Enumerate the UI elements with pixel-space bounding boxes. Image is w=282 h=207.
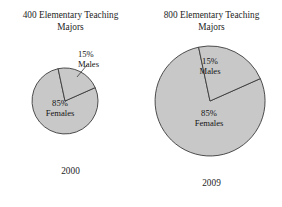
year-label-2000: 2000 [0,166,141,176]
females-percent-2000: 85% [52,98,68,108]
year-label-2009: 2009 [141,178,282,188]
slice-label-females-2000: 85% Females [25,98,95,118]
chart-panel-2000: 400 Elementary Teaching Majors 15% Males… [0,0,141,207]
females-percent-2009: 85% [201,108,217,118]
males-percent-2009: 15% [202,56,218,66]
females-name-2000: Females [25,108,95,118]
slice-label-males-2009: 15% Males [187,56,233,76]
pie-chart-figure: 400 Elementary Teaching Majors 15% Males… [0,0,282,207]
females-name-2009: Females [168,118,250,128]
slice-label-females-2009: 85% Females [168,108,250,128]
males-percent-2000: 15% [78,49,94,59]
males-name-2009: Males [187,66,233,76]
males-name-2000: Males [78,59,124,69]
slice-label-males-2000: 15% Males [78,49,124,69]
chart-panel-2009: 800 Elementary Teaching Majors 15% Males… [141,0,282,207]
pie-2009 [141,0,282,207]
